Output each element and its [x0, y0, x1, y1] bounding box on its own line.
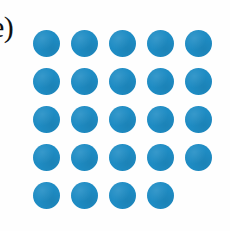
dot-row: [33, 68, 212, 106]
dot-marker: [109, 30, 136, 57]
panel-label: e): [0, 12, 13, 42]
dot-marker: [147, 144, 174, 171]
dot-row: [33, 182, 212, 220]
dot-marker: [71, 68, 98, 95]
dot-row: [33, 144, 212, 182]
dot-marker: [33, 144, 60, 171]
dot-marker: [33, 182, 60, 209]
dot-marker: [147, 30, 174, 57]
dot-marker: [109, 182, 136, 209]
dot-marker: [147, 106, 174, 133]
dot-marker: [185, 68, 212, 95]
dot-marker: [71, 30, 98, 57]
dot-marker: [109, 68, 136, 95]
dot-marker: [109, 144, 136, 171]
dot-marker: [33, 68, 60, 95]
dot-marker: [185, 30, 212, 57]
dot-row: [33, 106, 212, 144]
dot-marker: [33, 106, 60, 133]
dot-marker: [147, 182, 174, 209]
dot-marker: [33, 30, 60, 57]
dot-marker: [185, 106, 212, 133]
dot-marker: [71, 106, 98, 133]
figure-panel: e): [0, 0, 230, 231]
dot-array: [33, 30, 212, 209]
dot-marker: [71, 144, 98, 171]
dot-marker: [71, 182, 98, 209]
dot-row: [33, 30, 212, 68]
dot-marker: [185, 144, 212, 171]
dot-marker: [147, 68, 174, 95]
dot-marker: [109, 106, 136, 133]
